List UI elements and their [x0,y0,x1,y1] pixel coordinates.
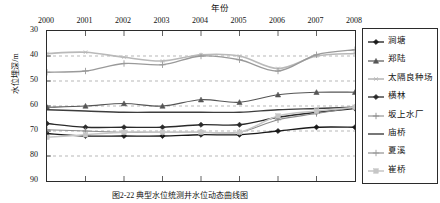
figure-caption: 图2-22 典型水位统测井水位动态曲线图 [0,189,360,200]
legend-item[interactable]: 太隔良种场 [365,68,437,86]
legend-label: 夏溪 [388,146,406,155]
y-tick-label: 90 [18,175,38,184]
legend-label: 崔桥 [388,165,406,174]
diamond-marker-icon [367,34,385,46]
series-canvas [47,31,355,181]
y-tick-label: 80 [18,150,38,159]
triangle-marker-icon [367,53,385,65]
figure-container: 年份 水位埋深/m 200020012002200320042005200620… [0,0,440,203]
asterisk-marker-icon [367,71,385,83]
legend-label: 庙桥 [388,128,406,137]
legend-label: 太隔良种场 [388,73,433,82]
series-7 [47,47,355,76]
x-tick-label: 2005 [222,16,256,25]
x-tick-label: 2008 [337,16,371,25]
legend-item[interactable]: 横林 [365,86,437,104]
legend-label: 横林 [388,91,406,100]
y-tick-label: 60 [18,100,38,109]
legend-item[interactable]: 坂上水厂 [365,105,437,123]
x-axis-title: 年份 [0,1,440,13]
legend: 涧塘郑陆太隔良种场横林坂上水厂庙桥夏溪崔桥 [362,28,438,184]
legend-item[interactable]: 夏溪 [365,141,437,159]
plus-marker-icon [367,108,385,120]
legend-label: 郑陆 [388,54,406,63]
line-marker-icon [367,126,385,138]
legend-label: 坂上水厂 [388,110,424,119]
x-tick-label: 2003 [145,16,179,25]
x-tick-label: 2000 [29,16,63,25]
y-tick-label: 50 [18,75,38,84]
legend-item[interactable]: 庙桥 [365,123,437,141]
x-tick-label: 2002 [106,16,140,25]
x-tick-label: 2001 [68,16,102,25]
y-tick-label: 40 [18,50,38,59]
y-tick-label: 70 [18,125,38,134]
legend-label: 涧塘 [388,36,406,45]
plus-marker-icon [367,145,385,157]
diamond-marker-icon [367,89,385,101]
x-tick-label: 2006 [260,16,294,25]
legend-item[interactable]: 郑陆 [365,49,437,67]
plot-area [46,30,356,182]
x-tick-label: 2004 [183,16,217,25]
x-tick-label: 2007 [299,16,333,25]
y-tick-label: 30 [18,25,38,34]
series-2 [47,90,355,110]
legend-item[interactable]: 崔桥 [365,160,437,178]
square-marker-icon [367,163,385,175]
legend-item[interactable]: 涧塘 [365,31,437,49]
series-4 [47,106,355,130]
